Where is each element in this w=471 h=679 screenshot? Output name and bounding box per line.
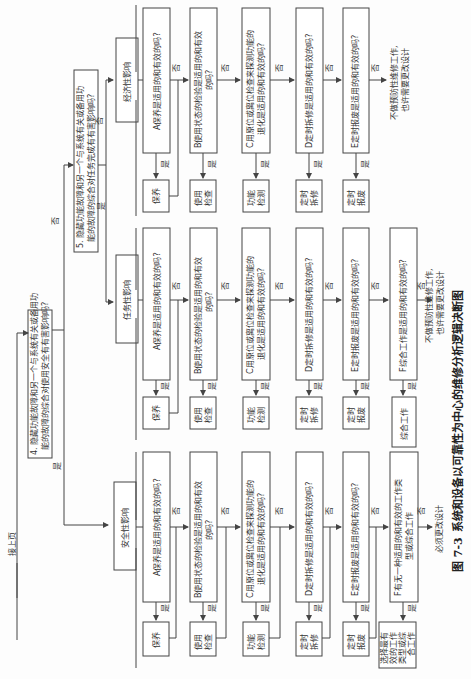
svg-text:检测: 检测	[256, 190, 266, 206]
svg-text:是: 是	[361, 160, 370, 168]
question-5-box: 5. 隐藏功能故障和另一个与系统有关或备用功 能的故障的综合对任务完成有有害影响…	[74, 70, 98, 252]
svg-text:检查: 检查	[203, 190, 213, 206]
svg-text:是: 是	[314, 382, 323, 390]
svg-text:否: 否	[172, 64, 181, 72]
svg-text:效的工作: 效的工作	[388, 632, 398, 664]
svg-text:F有无一种适用的和有效的工作类: F有无一种适用的和有效的工作类	[393, 479, 403, 596]
svg-text:A保养是适用的和有效的吗?: A保养是适用的和有效的吗?	[152, 32, 162, 130]
svg-text:是: 是	[208, 160, 217, 168]
svg-text:否: 否	[221, 64, 230, 72]
svg-text:定时: 定时	[299, 190, 309, 206]
svg-text:类型或综: 类型或综	[397, 632, 407, 664]
svg-text:否: 否	[275, 507, 284, 515]
svg-text:任务性影响: 任务性影响	[122, 280, 132, 320]
svg-text:4. 隐藏功能故障和另一个与系统有关或备用功: 4. 隐藏功能故障和另一个与系统有关或备用功	[29, 293, 39, 455]
svg-text:检测: 检测	[256, 407, 266, 423]
svg-text:否: 否	[417, 507, 426, 515]
svg-text:型或综合工作: 型或综合工作	[404, 512, 414, 560]
svg-text:否: 否	[325, 282, 334, 290]
svg-text:定时: 定时	[346, 634, 356, 650]
svg-text:否: 否	[95, 117, 104, 125]
svg-text:D定时拆修是适用的和有效的吗?: D定时拆修是适用的和有效的吗?	[304, 482, 314, 596]
svg-text:是: 是	[314, 160, 323, 168]
svg-text:C用原位或离位检查来探测功能的: C用原位或离位检查来探测功能的	[245, 256, 255, 374]
svg-text:是: 是	[161, 160, 170, 168]
svg-text:能的故障的综合对任务完成有有害影响吗?: 能的故障的综合对任务完成有有害影响吗?	[86, 94, 96, 242]
svg-text:使用: 使用	[193, 634, 203, 650]
svg-text:也许需要更改设计: 也许需要更改设计	[435, 271, 445, 335]
svg-text:报废: 报废	[356, 634, 366, 650]
svg-text:D定时拆修是适用的和有效的吗?: D定时拆修是适用的和有效的吗?	[304, 34, 314, 148]
svg-text:是: 是	[208, 604, 217, 612]
svg-text:否: 否	[371, 64, 380, 72]
svg-text:保养: 保养	[151, 632, 161, 648]
category-safety: 安全性影响	[114, 482, 136, 570]
svg-text:否: 否	[371, 282, 380, 290]
svg-text:拆修: 拆修	[309, 190, 319, 206]
svg-text:D定时拆修是适用的和有效的吗?: D定时拆修是适用的和有效的吗?	[304, 258, 314, 372]
svg-text:图 7-3: 图 7-3	[452, 537, 465, 572]
svg-text:是: 是	[261, 382, 270, 390]
svg-text:定时: 定时	[299, 634, 309, 650]
svg-text:定时: 定时	[346, 407, 356, 423]
svg-text:系统和设备以可靠性为中心的维修分析逻辑决断图: 系统和设备以可靠性为中心的维修分析逻辑决断图	[451, 290, 465, 532]
svg-text:拆修: 拆修	[309, 634, 319, 650]
svg-text:不做预防性维修工作,: 不做预防性维修工作,	[424, 268, 434, 343]
svg-text:报废: 报废	[356, 407, 366, 423]
svg-text:A保养是适用的和有效的吗?: A保养是适用的和有效的吗?	[152, 252, 162, 350]
svg-text:退化是适用的和有效的吗?: 退化是适用的和有效的吗?	[256, 43, 266, 135]
figure-caption: 图 7-3 系统和设备以可靠性为中心的维修分析逻辑决断图	[451, 290, 465, 572]
svg-text:否: 否	[325, 64, 334, 72]
svg-text:功能: 功能	[246, 407, 256, 423]
svg-text:定时: 定时	[299, 407, 309, 423]
svg-text:报废: 报废	[356, 190, 366, 206]
economic-column: A保养是适用的和有效的吗? 是 保养 否 B使用状态的检验是适用的和有效 的吗?…	[143, 8, 410, 212]
question-4-box: 4. 隐藏功能故障和另一个与系统有关或备用功 能的故障的综合对使用安全有有害影响…	[28, 293, 52, 458]
svg-text:是: 是	[97, 202, 106, 210]
svg-text:是: 是	[361, 604, 370, 612]
category-mission: 任务性影响	[116, 255, 138, 343]
svg-text:否: 否	[275, 64, 284, 72]
page-header: 接上页	[7, 532, 17, 598]
svg-text:经济性影响: 经济性影响	[122, 62, 132, 102]
svg-text:拆修: 拆修	[309, 407, 319, 423]
svg-text:检测: 检测	[256, 634, 266, 650]
svg-text:B使用状态的检验是适用的和有效: B使用状态的检验是适用的和有效	[193, 31, 203, 149]
svg-text:退化是适用的和有效的吗?: 退化是适用的和有效的吗?	[256, 493, 266, 585]
svg-text:功能: 功能	[246, 190, 256, 206]
svg-text:是: 是	[208, 382, 217, 390]
svg-text:退化是适用的和有效的吗?: 退化是适用的和有效的吗?	[256, 268, 266, 360]
svg-text:安全性影响: 安全性影响	[120, 508, 130, 548]
svg-text:B使用状态的检验是适用的和有效: B使用状态的检验是适用的和有效	[193, 481, 203, 599]
svg-text:A保养是适用的和有效的吗?: A保养是适用的和有效的吗?	[152, 478, 162, 576]
svg-text:合工作: 合工作	[406, 632, 416, 656]
svg-text:否: 否	[221, 507, 230, 515]
rcm-logic-decision-diagram: 接上页 4. 隐藏功能故障和另一个与系统有关或备用功 能的故障的综合对使用安全有…	[0, 0, 471, 679]
svg-text:否: 否	[275, 282, 284, 290]
svg-text:是: 是	[408, 604, 417, 612]
svg-text:使用: 使用	[193, 407, 203, 423]
svg-text:否: 否	[221, 282, 230, 290]
svg-text:C用原位或离位检查来探测功能的: C用原位或离位检查来探测功能的	[245, 30, 255, 148]
svg-text:否: 否	[172, 507, 181, 515]
svg-text:检查: 检查	[203, 634, 213, 650]
svg-text:否: 否	[371, 507, 380, 515]
svg-text:能的故障的综合对使用安全有有害影响吗?: 能的故障的综合对使用安全有有害影响吗?	[40, 302, 50, 450]
svg-text:否: 否	[325, 507, 334, 515]
svg-text:功能: 功能	[246, 634, 256, 650]
svg-text:选择最有: 选择最有	[379, 632, 389, 664]
svg-text:是: 是	[314, 604, 323, 612]
category-economic: 经济性影响	[116, 38, 138, 122]
svg-text:的吗?: 的吗?	[204, 70, 214, 90]
mission-column: A保养是适用的和有效的吗? 是 保养 否 B使用状态的检验是适用的和有效 的吗?…	[143, 228, 445, 447]
svg-text:E定时报废是适用的和有效的吗?: E定时报废是适用的和有效的吗?	[350, 483, 360, 596]
svg-text:否: 否	[172, 282, 181, 290]
svg-text:必须更改设计: 必须更改设计	[434, 505, 444, 553]
svg-text:的吗?: 的吗?	[204, 520, 214, 540]
svg-text:C用原位或离位检查来探测功能的: C用原位或离位检查来探测功能的	[245, 480, 255, 598]
svg-text:的吗?: 的吗?	[204, 292, 214, 312]
svg-text:B使用状态的检验是适用的和有效: B使用状态的检验是适用的和有效	[193, 257, 203, 375]
svg-text:保养: 保养	[151, 188, 161, 204]
svg-text:是: 是	[408, 382, 417, 390]
svg-text:定时: 定时	[346, 190, 356, 206]
